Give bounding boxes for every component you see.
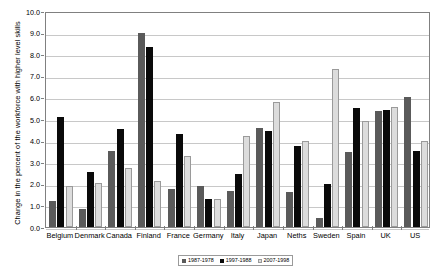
legend-item: 1987-1978 [182,257,214,264]
y-axis-tick-mark [41,98,44,99]
y-axis-tick-mark [41,12,44,13]
bar [87,172,94,227]
bar-group [46,13,76,227]
chart-container: Change in the percent of the workforce w… [0,0,442,280]
x-axis-category-label: Spain [341,231,371,240]
y-axis-tick-label: 1.0 [14,203,40,210]
bar [205,199,212,227]
bar [95,183,102,227]
bar-group [194,13,224,227]
bar [49,201,56,227]
bar [154,181,161,227]
bar [146,47,153,227]
bar [57,117,64,227]
bar [117,129,124,227]
x-axis-category-label: Denmark [75,231,105,240]
bar [125,168,132,227]
bar [176,134,183,227]
y-axis-tick-mark [41,55,44,56]
x-axis-category-label: US [400,231,430,240]
bar-series-layer [46,13,429,227]
bar [273,102,280,227]
y-axis-tick-label: 3.0 [14,160,40,167]
bar [108,151,115,227]
plot-area [45,12,430,228]
bar [383,110,390,227]
y-axis-tick-mark [41,206,44,207]
legend-swatch-icon [182,259,186,263]
legend-swatch-icon [220,259,224,263]
legend-label: 1997-1988 [226,257,252,264]
bar-group [283,13,313,227]
bar [294,146,301,227]
bar [235,174,242,227]
y-axis-tick-label: 0.0 [14,225,40,232]
legend-item: 1997-1988 [220,257,252,264]
y-axis-tick-label: 7.0 [14,73,40,80]
bar [256,128,263,227]
bar [227,191,234,227]
bar [197,186,204,227]
bar-group [164,13,194,227]
bar [66,186,73,227]
y-axis-tick-mark [41,77,44,78]
x-axis-category-label: Neths [282,231,312,240]
bar [391,107,398,227]
bar [302,141,309,227]
y-axis-tick-label: 8.0 [14,52,40,59]
x-axis-category-label: Belgium [45,231,75,240]
bar [362,121,369,227]
y-axis-tick-label: 6.0 [14,95,40,102]
bar [332,69,339,227]
bar [168,189,175,227]
y-axis-tick-label: 10.0 [14,9,40,16]
bar-group [224,13,254,227]
bar [138,33,145,227]
y-axis-tick-mark [41,163,44,164]
bar [353,108,360,227]
bar-group [342,13,372,227]
y-axis-tick-label: 9.0 [14,30,40,37]
bar [265,131,272,227]
bar-group [401,13,431,227]
y-axis-tick-mark [41,228,44,229]
x-axis-category-label: Sweden [312,231,342,240]
bar [316,218,323,227]
x-axis-category-label: Italy [223,231,253,240]
x-axis-category-label: Canada [104,231,134,240]
y-axis-tick-mark [41,34,44,35]
bar-group [105,13,135,227]
bar-group [135,13,165,227]
y-axis-tick-mark [41,185,44,186]
chart-legend: 1987-19781997-19882007-1998 [178,255,293,266]
y-axis-tick-label: 4.0 [14,138,40,145]
bar-group [372,13,402,227]
bar [404,97,411,227]
bar [324,184,331,227]
y-axis-tick-label: 5.0 [14,117,40,124]
bar [286,192,293,227]
legend-swatch-icon [258,259,262,263]
bar [345,152,352,227]
x-axis-category-label: Japan [252,231,282,240]
y-axis-tick-label: 2.0 [14,181,40,188]
x-axis-category-label: Finland [134,231,164,240]
bar-group [253,13,283,227]
x-axis-category-label: UK [371,231,401,240]
y-axis-tick-mark [41,120,44,121]
legend-item: 2007-1998 [258,257,290,264]
x-axis-category-label: Germany [193,231,223,240]
y-axis-tick-mark [41,142,44,143]
x-axis-category-label: France [163,231,193,240]
bar-group [313,13,343,227]
legend-label: 2007-1998 [264,257,290,264]
bar [79,209,86,227]
bar [421,141,428,227]
bar [214,199,221,227]
legend-label: 1987-1978 [188,257,214,264]
bar [243,136,250,227]
bar [413,151,420,227]
bar [184,156,191,227]
bar-group [76,13,106,227]
bar [375,111,382,227]
